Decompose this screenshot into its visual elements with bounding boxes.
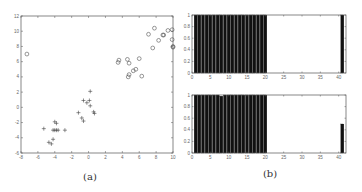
bar [234,15,237,73]
x-tick-label: 10 [226,155,232,160]
x-tick-label: 0 [191,155,194,160]
bar-chart-b-top: 051015202530354000.20.40.60.81 [184,13,346,80]
x-tick-label: 25 [281,75,287,80]
bar [253,15,256,73]
y-tick-label: -2 [15,120,19,125]
bar [212,15,215,73]
caption-b: (b) [263,168,277,179]
bar [227,15,230,73]
bar [238,15,241,73]
y-tick-label: 10 [14,29,20,34]
bar [245,95,248,153]
x-tick-label: -6 [36,155,40,160]
x-tick-label: 10 [170,155,176,160]
bar [227,95,230,153]
bar [238,95,241,153]
bar [201,15,204,73]
y-tick-label: 8 [16,44,19,49]
bar [260,95,263,153]
circle-marker [170,38,174,42]
circle-marker [127,61,131,65]
bar [201,95,204,153]
x-tick-label: 20 [263,75,269,80]
bar [242,15,245,73]
bar [341,15,344,73]
y-tick-label: 0.4 [184,47,191,52]
bar [245,15,248,73]
circle-marker [117,58,121,62]
bar [223,95,226,153]
bar [209,15,212,73]
y-tick-label: -6 [15,151,19,156]
y-tick-label: -4 [15,135,19,140]
bar [249,95,252,153]
y-tick-label: 1 [187,13,190,18]
plus-marker [85,101,89,105]
figure: -8-6-4-20246810-6-4-2024681012 051015202… [0,0,362,192]
circle-marker [140,74,144,78]
x-tick-label: 35 [318,75,324,80]
bar-chart-b-bottom: 051015202530354000.20.40.60.81 [184,93,346,160]
x-tick-label: 8 [155,155,158,160]
circle-marker [126,75,130,79]
x-tick-label: 15 [244,75,250,80]
bar [231,15,234,73]
y-tick-label: 12 [14,14,20,19]
circle-marker [127,73,131,77]
x-tick-label: 5 [209,75,212,80]
y-tick-label: 0.2 [184,59,191,64]
circle-marker [116,61,120,65]
x-tick-label: 0 [87,155,90,160]
y-tick-label: 1 [187,93,190,98]
plus-marker [63,128,67,132]
y-tick-label: 0.4 [184,127,191,132]
bar [194,95,197,153]
bar [253,95,256,153]
y-tick-label: 0 [16,105,19,110]
bar [249,15,252,73]
circle-marker [137,57,141,61]
y-tick-label: 2 [16,90,19,95]
plus-marker [51,137,55,141]
bar [216,15,219,73]
x-tick-label: 10 [226,75,232,80]
x-tick-label: -4 [53,155,57,160]
bar [242,95,245,153]
y-tick-label: 0.8 [184,24,191,29]
y-tick-label: 0.8 [184,104,191,109]
y-tick-label: 0.6 [184,36,191,41]
y-tick-label: 6 [16,59,19,64]
bar [212,95,215,153]
x-tick-label: 40 [336,155,342,160]
bar [223,15,226,73]
plus-marker [42,127,46,131]
x-tick-label: 6 [138,155,141,160]
bar [216,95,219,153]
x-tick-label: 2 [104,155,107,160]
circle-marker [153,26,157,30]
plus-marker [88,104,92,108]
bar [205,95,208,153]
bar [256,15,259,73]
plot-area [21,16,173,153]
y-tick-label: 0.2 [184,139,191,144]
x-tick-label: 4 [121,155,124,160]
x-tick-label: 15 [244,155,250,160]
bar [205,15,208,73]
circle-marker [157,38,161,42]
x-tick-label: 35 [318,155,324,160]
plus-marker [76,111,80,115]
bar [234,95,237,153]
bar [256,95,259,153]
x-tick-label: 30 [299,155,305,160]
bar [264,95,267,153]
scatter-plot-a: -8-6-4-20246810-6-4-2024681012 [14,14,176,160]
circle-marker [166,29,170,33]
x-tick-label: 5 [209,155,212,160]
bar [198,15,201,73]
x-tick-label: -2 [70,155,74,160]
bar [194,15,197,73]
bar [198,95,201,153]
caption-a: (a) [83,171,97,182]
bar [209,95,212,153]
